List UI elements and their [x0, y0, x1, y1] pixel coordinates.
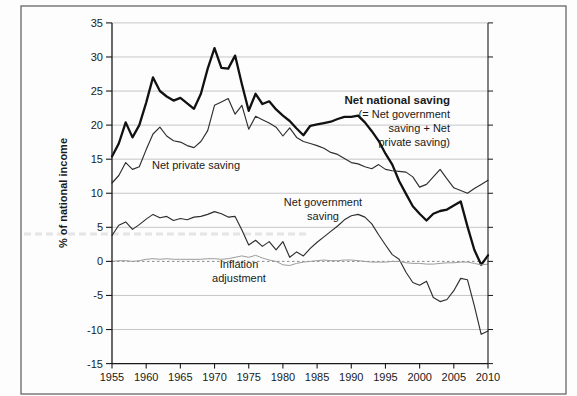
y-tick-label: 20	[91, 119, 103, 131]
label-net-national-saving-sub2: saving + Net	[389, 122, 450, 134]
x-tick-label: 1990	[339, 371, 363, 383]
y-tick-label: 35	[91, 17, 103, 29]
y-tick-label: 5	[97, 221, 103, 233]
x-tick-label: 1985	[305, 371, 329, 383]
label-net-private-saving: Net private saving	[152, 159, 240, 171]
label-net-national-saving-sub1: (= Net government	[359, 108, 450, 120]
x-tick-label: 1995	[373, 371, 397, 383]
x-tick-label: 1970	[202, 371, 226, 383]
x-tick-label: 2010	[476, 371, 500, 383]
label-inflation-adjustment-sub: adjustment	[212, 272, 266, 284]
y-tick-label: 10	[91, 187, 103, 199]
y-axis-title: % of national income	[57, 138, 69, 248]
x-tick-label: 1965	[168, 371, 192, 383]
series-line-net-national-saving	[112, 48, 488, 265]
series-line-inflation-adjustment	[112, 255, 488, 265]
x-tick-label: 1955	[100, 371, 124, 383]
label-inflation-adjustment: Inflation	[220, 258, 259, 270]
y-tick-label: 15	[91, 153, 103, 165]
grid-layer	[112, 23, 488, 330]
y-tick-label: -10	[87, 324, 103, 336]
x-tick-label: 1960	[134, 371, 158, 383]
label-net-government-saving: Net government	[284, 196, 362, 208]
y-tick-label: 0	[97, 255, 103, 267]
saving-chart: 35302520151050-5-10-15195519601965197019…	[0, 0, 577, 396]
x-tick-label: 2000	[407, 371, 431, 383]
series-line-net-government-saving	[112, 212, 488, 335]
figure-page: 35302520151050-5-10-15195519601965197019…	[0, 0, 577, 396]
y-tick-label: -5	[93, 289, 103, 301]
y-tick-label: 30	[91, 51, 103, 63]
x-tick-label: 1975	[236, 371, 260, 383]
x-tick-label: 1980	[271, 371, 295, 383]
label-net-national-saving: Net national saving	[345, 94, 450, 106]
y-tick-label: -15	[87, 358, 103, 370]
label-net-national-saving-sub3: private saving)	[378, 136, 450, 148]
y-tick-label: 25	[91, 85, 103, 97]
x-tick-label: 2005	[442, 371, 466, 383]
label-net-government-saving-sub: saving	[307, 210, 339, 222]
